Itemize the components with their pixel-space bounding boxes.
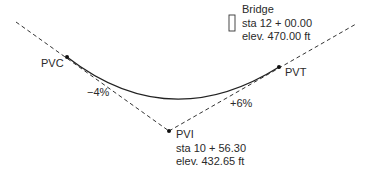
pvi-point: [167, 129, 171, 133]
pvc-label: PVC: [41, 57, 64, 70]
pvi-label: PVI: [176, 128, 246, 142]
back-grade-label: −4%: [87, 86, 109, 99]
pvt-label: PVT: [285, 66, 306, 79]
pvt-point: [277, 65, 281, 69]
back-tangent-line: [16, 22, 169, 131]
pvc-point: [65, 55, 69, 59]
forward-grade-label: +6%: [230, 97, 252, 110]
bridge-elevation: elev. 470.00 ft: [242, 30, 312, 44]
pvi-info: PVI sta 10 + 56.30 elev. 432.65 ft: [176, 128, 246, 169]
bridge-label: Bridge: [242, 3, 312, 17]
bridge-marker-icon: [229, 15, 235, 31]
pvi-station: sta 10 + 56.30: [176, 142, 246, 156]
bridge-info: Bridge sta 12 + 00.00 elev. 470.00 ft: [242, 3, 312, 44]
pvi-elevation: elev. 432.65 ft: [176, 155, 246, 169]
bridge-station: sta 12 + 00.00: [242, 17, 312, 31]
